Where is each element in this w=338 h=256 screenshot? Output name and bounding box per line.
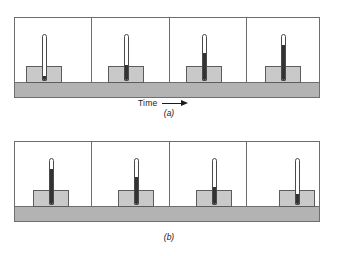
time-axis-label-a: Time bbox=[138, 98, 188, 108]
mercury-column bbox=[203, 53, 206, 80]
ground-band-a bbox=[15, 82, 319, 97]
thermometer bbox=[281, 34, 286, 81]
mercury-column bbox=[135, 177, 138, 204]
mercury-column bbox=[213, 187, 216, 204]
thermometer-time-sequence-figure: Time (a) (b) bbox=[0, 0, 338, 256]
thermometer bbox=[295, 158, 300, 205]
thermometer bbox=[212, 158, 217, 205]
mercury-column bbox=[125, 65, 128, 80]
thermometer bbox=[42, 34, 47, 81]
figure-part-a-strip bbox=[14, 17, 320, 98]
caption-part-a: (a) bbox=[0, 108, 338, 118]
caption-part-b: (b) bbox=[0, 232, 338, 242]
thermometer bbox=[134, 158, 139, 205]
ground-band-b bbox=[15, 206, 319, 221]
time-text: Time bbox=[138, 98, 157, 108]
mercury-column bbox=[282, 45, 285, 80]
thermometer bbox=[49, 158, 54, 205]
thermometer bbox=[202, 34, 207, 81]
thermometer bbox=[124, 34, 129, 81]
thermometer-tube bbox=[42, 34, 47, 81]
right-arrow-icon bbox=[162, 100, 188, 107]
figure-part-b-strip bbox=[14, 141, 320, 222]
mercury-column bbox=[50, 169, 53, 204]
mercury-column bbox=[296, 194, 299, 204]
mercury-column bbox=[43, 76, 46, 80]
